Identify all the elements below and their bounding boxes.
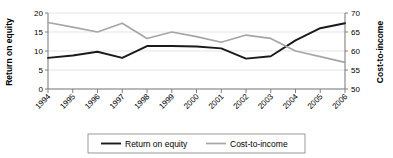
right-axis-tick-label: 50: [351, 85, 360, 94]
x-axis-tick-label: 1994: [33, 92, 52, 111]
x-axis-tick-label: 2003: [256, 92, 275, 111]
chart-container: 05101520 5055606570 19941995199619971998…: [0, 0, 393, 158]
left-axis-tick-label: 20: [34, 9, 43, 18]
x-axis: [48, 89, 345, 93]
legend-label-return-on-equity: Return on equity: [125, 139, 188, 149]
x-axis-tick-label: 2005: [306, 92, 325, 111]
x-axis-tick-label: 1995: [58, 92, 77, 111]
right-axis-tick-label: 60: [351, 47, 360, 56]
right-axis-title: Cost-to-income: [375, 21, 385, 84]
y-axis-left: [45, 13, 48, 89]
legend-label-cost-to-income: Cost-to-income: [230, 139, 288, 149]
y-right-tick-labels: 5055606570: [351, 9, 360, 94]
x-tick-labels: 1994199519961997199819992000200120022003…: [33, 92, 349, 111]
x-axis-tick-label: 2000: [182, 92, 201, 111]
series-line-return-on-equity: [48, 23, 345, 58]
gridlines: [48, 13, 345, 89]
legend: Return on equityCost-to-income: [88, 134, 305, 153]
x-axis-tick-label: 2001: [207, 92, 226, 111]
line-chart: 05101520 5055606570 19941995199619971998…: [0, 0, 393, 158]
x-axis-tick-label: 1998: [132, 92, 151, 111]
right-axis-tick-label: 55: [351, 66, 360, 75]
x-axis-tick-label: 1999: [157, 92, 176, 111]
x-axis-tick-label: 2002: [231, 92, 250, 111]
left-axis-title: Return on equity: [4, 18, 14, 86]
x-axis-tick-label: 1997: [108, 92, 127, 111]
left-axis-tick-label: 15: [34, 28, 43, 37]
right-axis-tick-label: 70: [351, 9, 360, 18]
left-axis-tick-label: 0: [39, 85, 44, 94]
y-left-tick-labels: 05101520: [34, 9, 43, 94]
x-axis-tick-label: 2004: [281, 92, 300, 111]
y-axis-right: [345, 13, 348, 89]
series-line-cost-to-income: [48, 23, 345, 63]
x-axis-tick-label: 1996: [83, 92, 102, 111]
series-lines: [48, 23, 345, 63]
right-axis-tick-label: 65: [351, 28, 360, 37]
left-axis-tick-label: 5: [39, 66, 44, 75]
x-axis-tick-label: 2006: [330, 92, 349, 111]
left-axis-tick-label: 10: [34, 47, 43, 56]
